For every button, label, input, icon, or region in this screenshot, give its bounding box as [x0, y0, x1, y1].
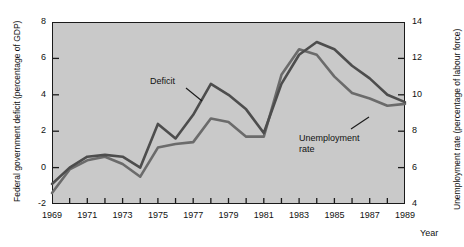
series-line-unemployment-rate: [52, 49, 405, 193]
x-tick-1981: 1981: [244, 210, 284, 220]
y-tick-right-6: 6: [412, 162, 438, 172]
x-tick-1983: 1983: [279, 210, 319, 220]
y-tick-right-10: 10: [412, 89, 438, 99]
y-axis-right-ticks: [398, 58, 405, 167]
x-tick-1969: 1969: [32, 210, 72, 220]
y-tick-right-8: 8: [412, 125, 438, 135]
y-tick-left-0: 0: [20, 162, 46, 172]
x-tick-1985: 1985: [314, 210, 354, 220]
x-tick-1971: 1971: [67, 210, 107, 220]
x-tick-1989: 1989: [385, 210, 425, 220]
x-tick-1977: 1977: [173, 210, 213, 220]
x-axis-ticks: [70, 198, 388, 204]
y-axis-left-ticks: [52, 58, 59, 167]
y-tick-right-14: 14: [412, 16, 438, 26]
series-label-deficit: Deficit: [150, 76, 175, 87]
series-label-unemployment-line1: Unemployment: [299, 133, 360, 143]
y-axis-left-title: Federal government deficit (percentage o…: [12, 21, 22, 202]
series-label-unemployment-rate: Unemployment rate: [299, 133, 360, 155]
x-tick-1979: 1979: [209, 210, 249, 220]
y-tick-left-2: 2: [20, 125, 46, 135]
y-tick-left-6: 6: [20, 52, 46, 62]
y-tick-left-4: 4: [20, 89, 46, 99]
series-line-deficit: [52, 42, 405, 184]
deficit-label-leader-line: [186, 88, 202, 101]
y-axis-right-title: Unemployment rate (percentage of labour …: [452, 29, 462, 210]
y-tick-left--2: -2: [20, 198, 46, 208]
series-label-unemployment-line2: rate: [299, 144, 315, 154]
x-axis-title: Year: [420, 228, 438, 238]
x-tick-1987: 1987: [350, 210, 390, 220]
y-tick-left-8: 8: [20, 16, 46, 26]
unemployment-label-leader-line: [351, 117, 369, 129]
chart-figure: -202468 468101214 1969197119731975197719…: [0, 0, 464, 247]
x-tick-1975: 1975: [138, 210, 178, 220]
y-tick-right-12: 12: [412, 52, 438, 62]
x-tick-1973: 1973: [103, 210, 143, 220]
y-tick-right-4: 4: [412, 198, 438, 208]
